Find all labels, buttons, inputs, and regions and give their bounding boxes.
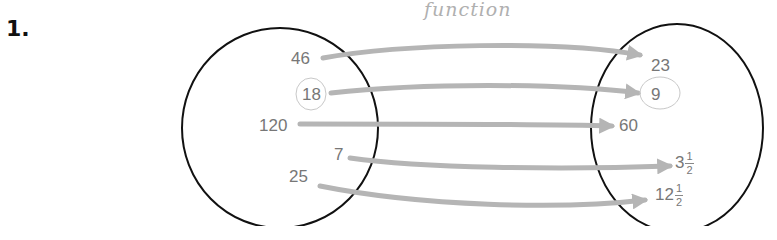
denominator: 2 xyxy=(686,164,692,176)
arrow-46-to-23 xyxy=(323,45,640,58)
fraction: 12 xyxy=(675,183,683,208)
arrow-120-to-60 xyxy=(300,124,612,126)
range-value-mixed: 312 xyxy=(675,151,694,176)
domain-value: 46 xyxy=(291,50,310,67)
numerator: 1 xyxy=(685,151,693,164)
range-value-mixed: 1212 xyxy=(655,183,683,208)
fraction: 12 xyxy=(685,151,693,176)
range-value: 23 xyxy=(651,57,670,74)
denominator: 2 xyxy=(676,196,682,208)
mixed-whole: 12 xyxy=(655,185,674,204)
domain-value: 7 xyxy=(334,146,343,163)
range-value-circled: 9 xyxy=(651,86,660,103)
domain-value: 120 xyxy=(259,117,287,134)
mixed-whole: 3 xyxy=(675,153,684,172)
arrow-25-to-12half xyxy=(320,186,645,205)
arrow-7-to-3half xyxy=(350,158,670,168)
range-value: 60 xyxy=(619,117,638,134)
arrow-18-to-9 xyxy=(331,86,638,94)
domain-value-circled: 18 xyxy=(302,86,321,103)
domain-value: 25 xyxy=(289,168,308,185)
numerator: 1 xyxy=(675,183,683,196)
